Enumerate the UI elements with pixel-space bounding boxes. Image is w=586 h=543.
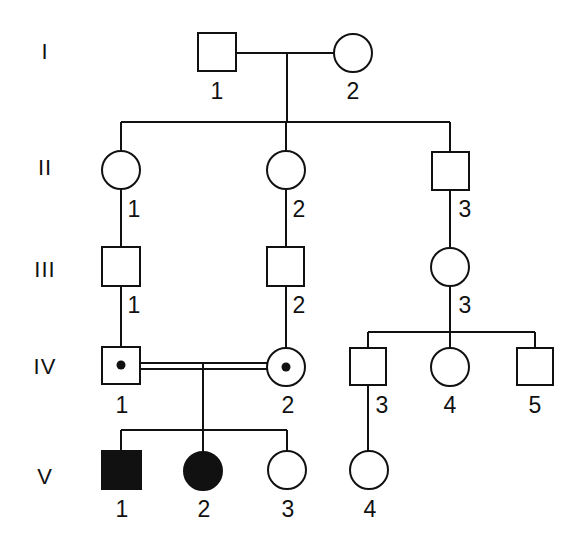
label-I-1: 1 — [211, 80, 224, 103]
individual-II-1-female — [102, 151, 140, 189]
label-II-1: 1 — [128, 198, 141, 221]
individual-V-3-female — [268, 451, 306, 489]
individual-III-2-male — [267, 247, 304, 286]
generation-label-II: II — [38, 157, 52, 179]
carrier-dot-icon — [117, 361, 126, 370]
label-II-3: 3 — [459, 198, 472, 221]
generation-label-IV: IV — [34, 356, 57, 378]
label-III-2: 2 — [293, 294, 306, 317]
pedigree-lines — [0, 0, 586, 543]
generation-label-III: III — [34, 259, 55, 281]
generation-label-V: V — [37, 466, 53, 488]
generation-label-I: I — [41, 41, 48, 63]
individual-IV-3-male — [350, 348, 386, 385]
individual-IV-5-male — [517, 348, 553, 385]
label-IV-5: 5 — [529, 394, 542, 417]
label-III-3: 3 — [459, 294, 472, 317]
label-IV-2: 2 — [282, 394, 295, 417]
individual-V-1-male-affected — [102, 451, 141, 489]
carrier-dot-icon — [282, 363, 291, 372]
individual-I-1-male — [198, 33, 236, 71]
label-II-2: 2 — [293, 198, 306, 221]
label-III-1: 1 — [128, 294, 141, 317]
individual-V-2-female-affected — [184, 452, 222, 490]
individual-III-1-male — [102, 247, 140, 286]
individual-IV-4-female — [431, 348, 469, 386]
individual-II-3-male — [432, 152, 469, 190]
individual-I-2-female — [334, 34, 372, 72]
individual-II-2-female — [267, 151, 305, 189]
individual-V-4-female — [350, 451, 388, 489]
individual-III-3-female — [431, 248, 469, 286]
label-I-2: 2 — [347, 80, 360, 103]
label-IV-4: 4 — [444, 394, 457, 417]
label-V-2: 2 — [198, 498, 211, 521]
label-V-4: 4 — [364, 498, 377, 521]
label-IV-3: 3 — [376, 394, 389, 417]
label-V-3: 3 — [282, 498, 295, 521]
label-IV-1: 1 — [116, 394, 129, 417]
label-V-1: 1 — [116, 498, 129, 521]
pedigree-diagram: I II III IV V 1 2 1 2 3 1 2 3 1 2 3 4 5 … — [0, 0, 586, 543]
